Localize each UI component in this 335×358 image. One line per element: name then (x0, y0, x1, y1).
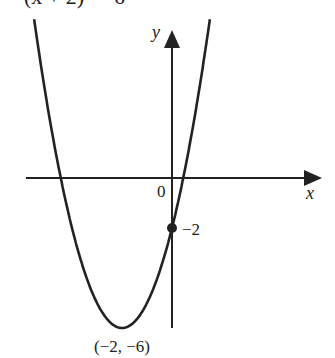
y-intercept-point (167, 223, 177, 233)
y-axis-arrow-icon (164, 30, 180, 48)
y-axis-label: y (150, 22, 160, 42)
y-intercept-label: −2 (182, 220, 200, 239)
vertex-label: (−2, −6) (94, 337, 150, 356)
x-axis-label: x (305, 183, 314, 203)
chart-canvas: y x 0 −2 (−2, −6) (0, 0, 335, 358)
parabola-curve (34, 19, 210, 328)
origin-label: 0 (157, 182, 166, 201)
